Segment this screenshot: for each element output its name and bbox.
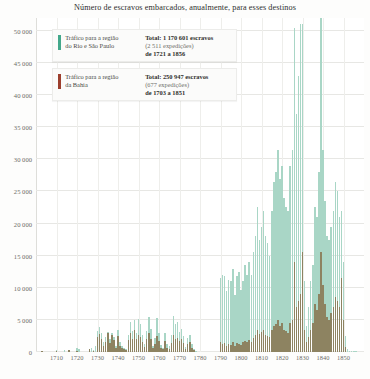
x-axis-tick-label: 1720 xyxy=(71,354,84,361)
bar-rio-1856 xyxy=(355,351,357,352)
legend-label-bahia: Tráfico para a região da Bahia xyxy=(65,73,145,89)
x-axis-tick-label: 1850 xyxy=(337,354,350,361)
x-axis-tick-label: 1760 xyxy=(153,354,166,361)
x-axis-tick-label: 1830 xyxy=(296,354,309,361)
x-axis-tick-label: 1740 xyxy=(112,354,125,361)
bar-rio-1721 xyxy=(78,349,80,352)
bar-bahia-1851 xyxy=(345,347,347,352)
legend-item-rio-sao-paulo[interactable]: Tráfico para a região do Rio e São Paulo… xyxy=(52,29,237,62)
chart-title: Número de escravos embarcados, anualment… xyxy=(0,3,370,12)
y-axis-tick-label: 25 000 xyxy=(14,188,32,195)
y-axis-tick-label: 40 000 xyxy=(14,92,32,99)
legend-label-bahia-line1: Tráfico para a região xyxy=(65,73,145,81)
y-axis-tick-label: 15 000 xyxy=(14,252,32,259)
x-axis-tick-label: 1710 xyxy=(50,354,63,361)
legend-item-bahia[interactable]: Tráfico para a região da Bahia Total: 25… xyxy=(52,68,237,101)
y-axis-tick-label: 0 xyxy=(29,349,32,356)
legend-stats-bahia-range: de 1703 a 1851 xyxy=(145,89,230,97)
legend-label-rio: Tráfico para a região do Rio e São Paulo xyxy=(65,34,145,50)
legend-stats-bahia: Total: 250 947 escravos (677 expedições)… xyxy=(145,73,230,97)
x-axis-tick-label: 1780 xyxy=(194,354,207,361)
x-axis-tick-label: 1800 xyxy=(235,354,248,361)
y-axis-line xyxy=(36,18,37,352)
bar-rio-1778 xyxy=(195,351,197,352)
legend-stats-bahia-expeditions: (677 expedições) xyxy=(145,81,230,89)
y-axis-tick-labels: 05 00010 00015 00020 00025 00030 00035 0… xyxy=(0,18,34,352)
legend-stats-bahia-total: Total: 250 947 escravos xyxy=(145,73,230,81)
bar-bahia-1720 xyxy=(76,351,78,352)
x-axis-tick-label: 1810 xyxy=(255,354,268,361)
legend-label-rio-line1: Tráfico para a região xyxy=(65,34,145,42)
x-axis-tick-label: 1840 xyxy=(317,354,330,361)
x-axis-tick-labels: 1710172017301740175017601770178017901800… xyxy=(36,354,364,368)
legend-stats-rio: Total: 1 170 601 escravos (2 511 expediç… xyxy=(145,34,230,58)
legend-stats-rio-total: Total: 1 170 601 escravos xyxy=(145,34,230,42)
bar-bahia-1716 xyxy=(68,350,70,352)
x-axis-tick-label: 1820 xyxy=(276,354,289,361)
x-axis-tick-label: 1790 xyxy=(214,354,227,361)
x-axis-tick-label: 1730 xyxy=(91,354,104,361)
y-axis-tick-label: 35 000 xyxy=(14,124,32,131)
y-axis-tick-label: 5 000 xyxy=(17,316,32,323)
y-axis-tick-label: 30 000 xyxy=(14,156,32,163)
legend-stats-rio-expeditions: (2 511 expedições) xyxy=(145,42,230,50)
y-axis-tick-label: 45 000 xyxy=(14,59,32,66)
y-axis-tick-label: 20 000 xyxy=(14,220,32,227)
bar-bahia-1710 xyxy=(56,351,58,352)
legend-label-rio-line2: do Rio e São Paulo xyxy=(65,42,145,50)
bar-bahia-1728 xyxy=(93,351,95,352)
bar-rio-1714 xyxy=(64,350,66,352)
chart-container: Número de escravos embarcados, anualment… xyxy=(0,0,370,379)
legend-stats-rio-range: de 1721 a 1856 xyxy=(145,50,230,58)
bar-bahia-1777 xyxy=(193,350,195,352)
x-axis-tick-label: 1750 xyxy=(132,354,145,361)
y-axis-tick-label: 10 000 xyxy=(14,284,32,291)
bar-bahia-1726 xyxy=(89,349,91,352)
x-axis-tick-label: 1770 xyxy=(173,354,186,361)
legend-swatch-bahia-icon xyxy=(58,74,61,89)
legend-swatch-rio-icon xyxy=(58,35,61,50)
bar-bahia-1703 xyxy=(41,351,43,352)
y-axis-tick-label: 50 000 xyxy=(14,27,32,34)
legend-label-bahia-line2: da Bahia xyxy=(65,81,145,89)
